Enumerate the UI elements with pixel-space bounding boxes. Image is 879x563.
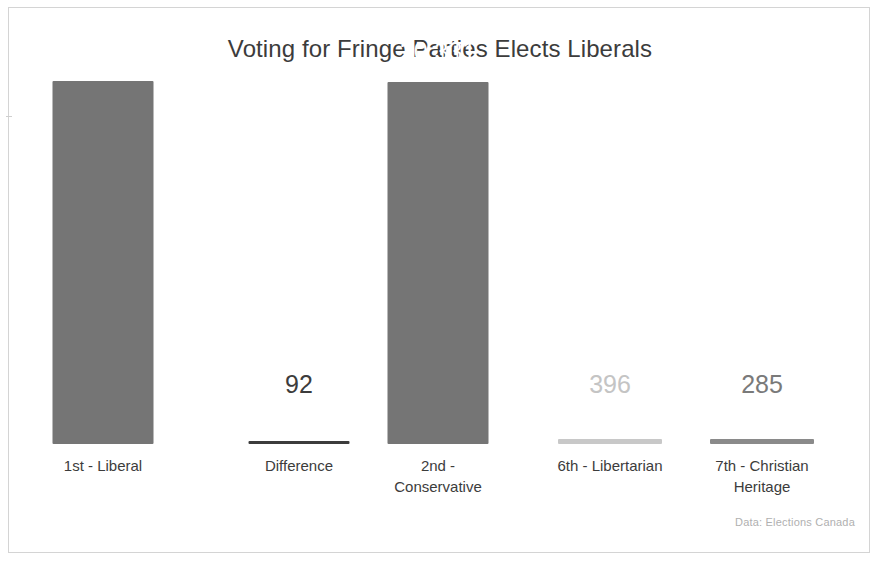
bar-rect-6th-libertarian[interactable] xyxy=(558,439,662,444)
bar-label-1st-liberal: 1st - Liberal xyxy=(15,455,191,476)
bar-group-7th-christian-heritage[interactable]: 285 7th - Christian Heritage xyxy=(674,8,850,554)
bar-rect-1st-liberal[interactable] xyxy=(53,81,154,444)
bar-group-2nd-conservative[interactable]: 20,331 2nd - Conservative xyxy=(350,8,526,554)
bar-label-2nd-conservative: 2nd - Conservative xyxy=(350,455,526,497)
bar-group-6th-libertarian[interactable]: 396 6th - Libertarian xyxy=(522,8,698,554)
chart-frame: Voting for Fringe Parties Elects Liberal… xyxy=(8,7,870,553)
bar-group-1st-liberal[interactable]: 20,423 1st - Liberal xyxy=(15,8,191,554)
chart-source-note: Data: Elections Canada xyxy=(735,516,855,528)
bar-column: 20,331 xyxy=(350,8,526,444)
bar-value-1st-liberal: 20,423 xyxy=(15,36,191,65)
bar-value-2nd-conservative: 20,331 xyxy=(350,37,526,66)
bar-label-6th-libertarian: 6th - Libertarian xyxy=(522,455,698,476)
bar-column: 285 xyxy=(674,8,850,444)
bar-label-7th-christian-heritage: 7th - Christian Heritage xyxy=(674,455,850,497)
bar-rect-7th-christian-heritage[interactable] xyxy=(710,439,814,444)
bar-value-7th-christian-heritage: 285 xyxy=(674,370,850,399)
bar-column: 396 xyxy=(522,8,698,444)
bar-rect-difference[interactable] xyxy=(249,441,350,444)
plot-area: 20,423 1st - Liberal 92 Difference 20,33… xyxy=(9,8,871,554)
bar-value-6th-libertarian: 396 xyxy=(522,370,698,399)
bar-column: 20,423 xyxy=(15,8,191,444)
bar-rect-2nd-conservative[interactable] xyxy=(388,82,489,444)
